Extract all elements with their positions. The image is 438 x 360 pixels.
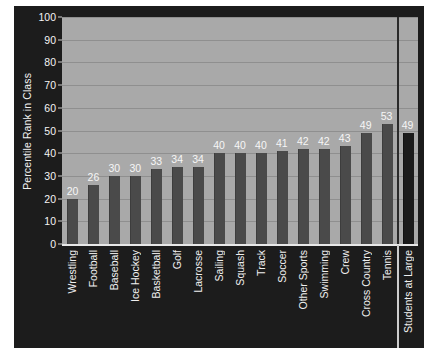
category-group-separator [397,17,399,244]
bar-value-label: 43 [331,133,359,144]
y-axis-tick-label: 20 [44,194,56,204]
x-axis-category-label: Squash [234,250,246,286]
bar-sailing [214,153,225,244]
gridline [62,85,418,86]
x-axis-category-label: Students at Large [402,250,414,333]
x-axis-category-label: Sailing [213,250,225,282]
bar-soccer [277,151,288,244]
x-axis-category-label: Swimming [318,250,330,298]
bar-other-sports [298,149,309,244]
x-axis-category-label: Wrestling [66,250,78,294]
y-axis-tick-label: 60 [44,103,56,113]
x-axis-category-label: Ice Hockey [129,250,141,302]
bar-basketball [151,169,162,244]
y-axis-tick-label: 70 [44,80,56,90]
bar-squash [235,153,246,244]
bar-football [88,185,99,244]
y-axis-title-text: Percentile Rank in Class [21,73,33,190]
x-axis-category-label: Football [87,250,99,287]
x-axis-category-label: Tennis [381,250,393,280]
x-axis-category-label: Lacrosse [192,250,204,293]
y-axis-tick-label: 100 [38,12,56,22]
y-axis-tick-label: 30 [44,171,56,181]
x-axis-category-label: Golf [171,250,183,269]
chart-figure: Percentile Rank in Class 010203040506070… [14,6,424,348]
bar-crew [340,146,351,244]
bar-swimming [319,149,330,244]
bar-wrestling [67,199,78,244]
x-axis-line [62,244,418,246]
category-group-separator-lower [397,245,399,348]
bar-value-label: 34 [184,154,212,165]
x-axis-category-label: Cross Country [360,250,372,317]
x-axis-category-label: Track [255,250,267,276]
bar-golf [172,167,183,244]
y-axis-tick-label: 0 [50,239,56,249]
x-axis-category-label: Baseball [108,250,120,290]
x-axis-category-label: Basketball [150,250,162,298]
bar-baseball [109,176,120,244]
gridline [62,40,418,41]
y-axis-tick-label: 50 [44,126,56,136]
gridline [62,17,418,18]
bar-lacrosse [193,167,204,244]
y-axis-ticks: 0102030405060708090100 [34,6,62,348]
gridline [62,108,418,109]
x-axis-category-label: Other Sports [297,250,309,310]
y-axis-tick-label: 80 [44,57,56,67]
x-axis-category-label: Crew [339,250,351,275]
bar-students-at-large [403,133,414,244]
gridline [62,62,418,63]
y-axis-tick-label: 90 [44,35,56,45]
bar-value-label: 20 [58,186,86,197]
bar-ice-hockey [130,176,141,244]
bar-track [256,153,267,244]
x-axis-category-label: Soccer [276,250,288,283]
bar-tennis [382,124,393,244]
y-axis-tick-label: 40 [44,148,56,158]
bar-cross-country [361,133,372,244]
y-axis-tick-label: 10 [44,216,56,226]
